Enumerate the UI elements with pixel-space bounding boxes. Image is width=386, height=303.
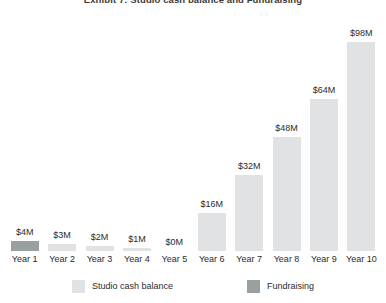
bar-year-1 <box>11 241 39 251</box>
bar-group-year-10: $98M <box>343 8 380 251</box>
cat-label-year-1: Year 1 <box>6 253 43 265</box>
bar-value-label: $1M <box>128 234 146 245</box>
legend-swatch-icon <box>247 280 260 293</box>
bar-year-9 <box>310 99 338 251</box>
legend-label: Fundraising <box>267 280 314 293</box>
bar-value-label: $2M <box>91 232 109 243</box>
bar-year-10 <box>347 42 375 251</box>
cat-label-year-8: Year 8 <box>268 253 305 265</box>
bar-group-year-2: $3M <box>43 8 80 251</box>
bar-value-label: $64M <box>313 85 336 96</box>
bar-year-4 <box>123 248 151 251</box>
cat-label-year-2: Year 2 <box>43 253 80 265</box>
bar-chart: Exhibit 7: Studio cash balance and Fundr… <box>0 0 386 303</box>
cat-label-year-10: Year 10 <box>343 253 380 265</box>
category-axis: Year 1 Year 2 Year 3 Year 4 Year 5 Year … <box>0 253 386 265</box>
cat-label-year-5: Year 5 <box>156 253 193 265</box>
bar-value-label: $3M <box>53 230 71 241</box>
bar-year-6 <box>198 213 226 251</box>
cat-label-year-7: Year 7 <box>230 253 267 265</box>
cat-label-year-3: Year 3 <box>81 253 118 265</box>
chart-title: Exhibit 7: Studio cash balance and Fundr… <box>0 0 386 5</box>
bar-group-year-6: $16M <box>193 8 230 251</box>
cat-label-year-9: Year 9 <box>305 253 342 265</box>
bar-group-year-5: $0M <box>156 8 193 251</box>
plot-area: $4M $3M $2M $1M $0M $16M $32M $4 <box>0 8 386 251</box>
bar-group-year-7: $32M <box>230 8 267 251</box>
bar-group-year-8: $48M <box>268 8 305 251</box>
bar-value-label: $32M <box>238 161 261 172</box>
bar-group-year-1: $4M <box>6 8 43 251</box>
legend-label: Studio cash balance <box>92 280 173 293</box>
bar-year-3 <box>86 246 114 251</box>
bar-year-8 <box>273 137 301 251</box>
legend-item-fundraising[interactable]: Fundraising <box>247 280 314 293</box>
chart-legend: Studio cash balance Fundraising <box>0 280 386 293</box>
bar-value-label: $0M <box>166 237 184 248</box>
cat-label-year-4: Year 4 <box>118 253 155 265</box>
bar-year-2 <box>48 244 76 251</box>
bar-value-label: $98M <box>350 28 373 39</box>
bar-value-label: $48M <box>275 123 298 134</box>
cat-label-year-6: Year 6 <box>193 253 230 265</box>
bar-group-year-9: $64M <box>305 8 342 251</box>
bar-year-7 <box>235 175 263 251</box>
legend-item-studio-cash-balance[interactable]: Studio cash balance <box>72 280 173 293</box>
bar-group-year-4: $1M <box>118 8 155 251</box>
legend-swatch-icon <box>72 280 85 293</box>
bar-value-label: $16M <box>200 199 223 210</box>
bar-group-year-3: $2M <box>81 8 118 251</box>
bar-value-label: $4M <box>16 227 34 238</box>
